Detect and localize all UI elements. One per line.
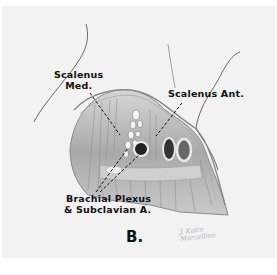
label-scalenus-med-line2: Med. [54,80,103,91]
vessel-right-1 [163,138,175,160]
label-scalenus-ant: Scalenus Ant. [168,88,244,99]
panel-letter: B. [126,228,143,246]
label-scalenus-med: Scalenus Med. [54,69,103,91]
label-brachial-plexus: Brachial Plexus & Subclavian A. [64,193,151,215]
subclavian-artery [134,142,148,156]
label-brachial-line1: Brachial Plexus [64,193,151,204]
skin-contour-mid [168,44,175,88]
label-scalenus-med-line1: Scalenus [54,69,103,80]
vessel-right-2 [177,139,191,161]
label-brachial-line2: & Subclavian A. [64,204,151,215]
